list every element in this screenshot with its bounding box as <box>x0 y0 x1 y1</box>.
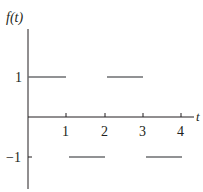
x-tick-label-2: 2 <box>101 124 108 139</box>
x-tick-label-4: 4 <box>177 124 184 139</box>
y-axis-label: f(t) <box>6 10 23 26</box>
x-axis-label: t <box>196 109 200 124</box>
y-tick-label-neg1: −1 <box>6 150 21 165</box>
x-tick-label-1: 1 <box>62 124 69 139</box>
x-ticks <box>66 113 181 117</box>
y-tick-label-1: 1 <box>15 70 22 85</box>
x-tick-label-3: 3 <box>139 124 146 139</box>
square-wave-chart: f(t) t 1 2 3 4 1 −1 <box>0 0 203 192</box>
